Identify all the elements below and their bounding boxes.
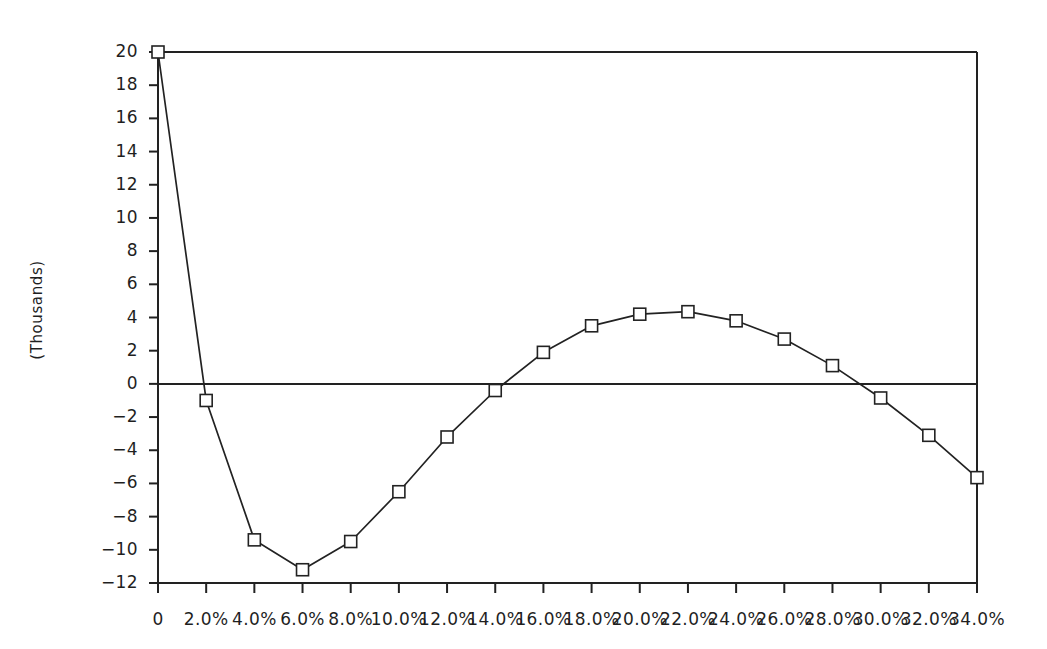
data-point-marker bbox=[441, 431, 453, 443]
y-tick-label: 18 bbox=[116, 74, 138, 94]
y-tick-label: 12 bbox=[116, 174, 138, 194]
data-point-marker bbox=[152, 46, 164, 58]
y-axis-tick-labels: 20181614121086420−2−4−6−8−10−12 bbox=[101, 41, 138, 592]
y-tick-label: 6 bbox=[127, 273, 138, 293]
data-point-marker bbox=[875, 392, 887, 404]
y-tick-label: −8 bbox=[112, 506, 138, 526]
data-markers bbox=[152, 46, 983, 576]
y-tick-label: 16 bbox=[116, 107, 138, 127]
x-tick-label: 2.0% bbox=[184, 609, 229, 629]
y-tick-label: −4 bbox=[112, 439, 138, 459]
y-tick-label: −2 bbox=[112, 406, 138, 426]
x-tick-label: 34.0% bbox=[949, 609, 1005, 629]
data-point-marker bbox=[248, 534, 260, 546]
x-tick-label: 8.0% bbox=[328, 609, 373, 629]
y-tick-label: 4 bbox=[127, 307, 138, 327]
y-tick-label: 8 bbox=[127, 240, 138, 260]
y-tick-label: −10 bbox=[101, 539, 138, 559]
x-tick-label: 0 bbox=[152, 609, 163, 629]
y-tick-label: −12 bbox=[101, 572, 138, 592]
series-line bbox=[158, 52, 977, 570]
y-tick-label: 2 bbox=[127, 340, 138, 360]
x-tick-label: 6.0% bbox=[280, 609, 325, 629]
data-point-marker bbox=[971, 472, 983, 484]
y-tick-label: 0 bbox=[127, 373, 138, 393]
data-point-marker bbox=[200, 394, 212, 406]
data-point-marker bbox=[634, 308, 646, 320]
y-tick-label: 10 bbox=[116, 207, 138, 227]
x-tick-label: 4.0% bbox=[232, 609, 277, 629]
data-point-marker bbox=[586, 320, 598, 332]
data-point-marker bbox=[297, 564, 309, 576]
data-point-marker bbox=[778, 333, 790, 345]
y-axis-ticks bbox=[149, 52, 158, 583]
chart-container: (Thousands) 20181614121086420−2−4−6−8−10… bbox=[0, 0, 1047, 649]
data-point-marker bbox=[537, 346, 549, 358]
data-point-marker bbox=[489, 385, 501, 397]
y-tick-label: −6 bbox=[112, 472, 138, 492]
y-axis-title: (Thousands) bbox=[28, 260, 46, 360]
y-tick-label: 20 bbox=[116, 41, 138, 61]
data-point-marker bbox=[826, 360, 838, 372]
data-point-marker bbox=[923, 429, 935, 441]
data-point-marker bbox=[682, 306, 694, 318]
x-axis-ticks bbox=[158, 583, 977, 593]
data-point-marker bbox=[730, 315, 742, 327]
plot-frame bbox=[158, 52, 977, 583]
y-tick-label: 14 bbox=[116, 141, 138, 161]
line-chart-plot: (Thousands) 20181614121086420−2−4−6−8−10… bbox=[0, 0, 1047, 649]
data-series bbox=[158, 52, 977, 570]
data-point-marker bbox=[393, 486, 405, 498]
x-axis-tick-labels: 02.0%4.0%6.0%8.0%10.0%12.0%14.0%16.0%18.… bbox=[152, 609, 1005, 629]
data-point-marker bbox=[345, 536, 357, 548]
